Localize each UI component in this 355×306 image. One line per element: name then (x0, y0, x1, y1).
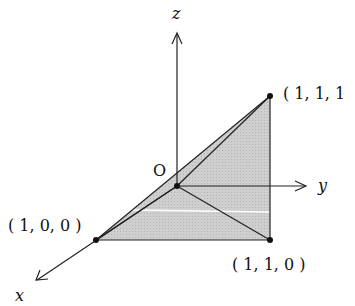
y-axis-label: y (318, 178, 327, 194)
point-111 (267, 93, 273, 99)
x-arrowhead-icon (36, 270, 48, 280)
x-axis-label: x (15, 288, 24, 304)
diagram-canvas: z y x O ( 1, 1, 1 ( 1, 0, 0 ) ( 1, 1, 0 … (0, 0, 355, 306)
point-100 (93, 237, 99, 243)
origin-label: O (153, 163, 166, 179)
z-axis-label: z (172, 6, 180, 22)
point-origin (174, 183, 180, 189)
point-110 (267, 237, 273, 243)
point-label-110: ( 1, 1, 0 ) (232, 257, 306, 273)
point-label-100: ( 1, 0, 0 ) (8, 218, 82, 234)
point-label-111: ( 1, 1, 1 (283, 86, 345, 102)
